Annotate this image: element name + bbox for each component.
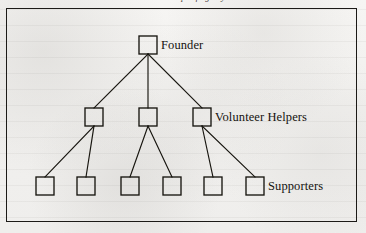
edge-helper-2-to-supporter-4 [148, 126, 172, 177]
label-helpers: Volunteer Helpers [215, 110, 307, 125]
edge-founder-to-helper-3 [148, 54, 202, 108]
node-supporter-4 [163, 177, 181, 195]
scanned-page: Outline Shape of Agency FounderVolunteer… [0, 0, 366, 233]
node-supporter-5 [204, 177, 222, 195]
node-founder [139, 36, 157, 54]
edge-founder-to-helper-1 [94, 54, 148, 108]
node-helper-3 [193, 108, 211, 126]
edge-helper-3-to-supporter-5 [202, 126, 213, 177]
label-supporters: Supporters [268, 179, 323, 194]
org-chart-canvas [0, 0, 366, 233]
node-supporter-3 [121, 177, 139, 195]
node-supporter-2 [77, 177, 95, 195]
edge-helper-3-to-supporter-6 [202, 126, 255, 177]
node-helper-1 [85, 108, 103, 126]
node-helper-2 [139, 108, 157, 126]
node-supporter-6 [246, 177, 264, 195]
edge-helper-2-to-supporter-3 [130, 126, 148, 177]
node-supporter-1 [36, 177, 54, 195]
label-founder: Founder [161, 38, 203, 53]
